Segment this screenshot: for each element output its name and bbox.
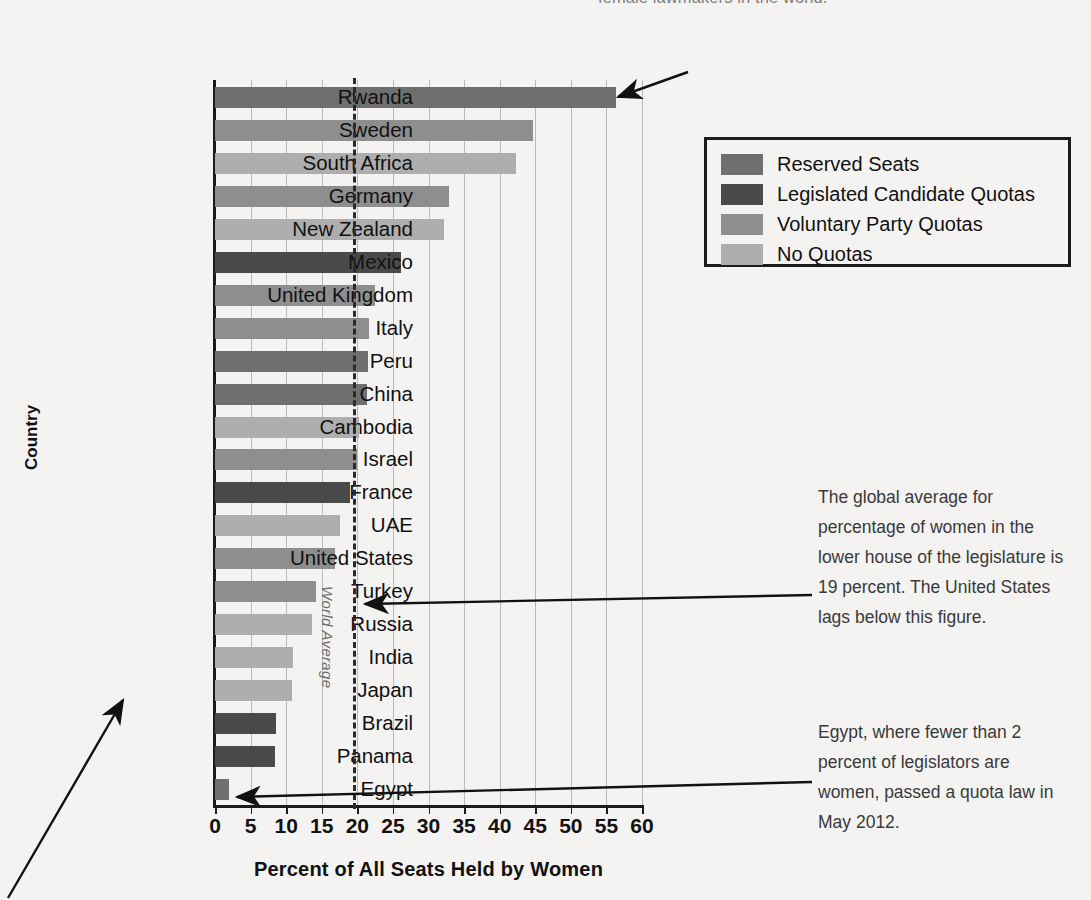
bar-row xyxy=(215,746,275,767)
y-axis-category-label: China xyxy=(359,383,413,404)
y-axis-category-label: South Africa xyxy=(302,152,413,173)
y-axis-category-label: Panama xyxy=(337,745,413,766)
legend-swatch-legislated-candidate-quotas xyxy=(721,184,763,205)
x-axis-tick xyxy=(464,805,466,814)
legend-label: Reserved Seats xyxy=(777,153,919,176)
legend-label: Voluntary Party Quotas xyxy=(777,213,983,236)
x-axis-tick-label: 10 xyxy=(274,814,297,838)
x-axis-tick xyxy=(215,805,217,814)
y-axis-category-label: Brazil xyxy=(362,712,413,733)
x-axis-tick-label: 40 xyxy=(488,814,511,838)
gridline xyxy=(571,80,572,805)
y-axis-category-label: India xyxy=(369,646,413,667)
y-axis-category-label: Japan xyxy=(357,679,413,700)
bar-row xyxy=(215,779,229,800)
x-axis-tick-label: 50 xyxy=(559,814,582,838)
y-axis-category-label: Germany xyxy=(329,185,413,206)
bar xyxy=(215,318,369,339)
legend-swatch-no-quotas xyxy=(721,244,763,265)
x-axis-tick-label: 15 xyxy=(310,814,333,838)
bar xyxy=(215,384,367,405)
bar-row xyxy=(215,318,369,339)
chart-figure: female lawmakers in the world. Country 0… xyxy=(0,0,1091,900)
bar xyxy=(215,680,292,701)
y-axis-title: Country xyxy=(22,405,42,470)
bar xyxy=(215,647,293,668)
y-axis-category-label: Egypt xyxy=(361,778,413,799)
y-axis-category-label: UAE xyxy=(371,514,413,535)
bar xyxy=(215,449,357,470)
y-axis-category-label: Italy xyxy=(375,317,413,338)
x-axis-tick xyxy=(393,805,395,814)
x-axis-tick xyxy=(606,805,608,814)
arrow-bottom-left xyxy=(8,700,123,898)
legend-item: Voluntary Party Quotas xyxy=(721,210,1068,238)
x-axis-tick xyxy=(357,805,359,814)
y-axis-category-label: United States xyxy=(290,547,413,568)
bar-row xyxy=(215,581,316,602)
x-axis-tick xyxy=(429,805,431,814)
gridline xyxy=(464,80,465,805)
bar-row xyxy=(215,449,357,470)
legend-swatch-reserved-seats xyxy=(721,154,763,175)
y-axis-category-label: Turkey xyxy=(351,580,413,601)
x-axis-tick-label: 35 xyxy=(452,814,475,838)
bar xyxy=(215,482,350,503)
annotation-egypt: Egypt, where fewer than 2 percent of leg… xyxy=(818,717,1070,837)
y-axis-category-label: Mexico xyxy=(348,251,413,272)
gridline xyxy=(535,80,536,805)
x-axis-tick xyxy=(500,805,502,814)
bar-row xyxy=(215,351,368,372)
x-axis-tick-label: 30 xyxy=(417,814,440,838)
bar-row xyxy=(215,87,616,108)
bar xyxy=(215,87,616,108)
x-axis-tick-label: 20 xyxy=(346,814,369,838)
x-axis-tick xyxy=(571,805,573,814)
y-axis-category-label: Rwanda xyxy=(338,86,413,107)
annotation-global-average: The global average for percentage of wom… xyxy=(818,482,1070,632)
legend-item: Legislated Candidate Quotas xyxy=(721,180,1068,208)
y-axis-category-label: Peru xyxy=(370,350,413,371)
bar xyxy=(215,779,229,800)
bar xyxy=(215,746,275,767)
gridline xyxy=(642,80,643,805)
x-axis-tick-label: 0 xyxy=(209,814,221,838)
bar xyxy=(215,515,340,536)
bar-row xyxy=(215,713,276,734)
x-axis-tick xyxy=(642,805,644,814)
y-axis-category-label: Russia xyxy=(350,613,413,634)
x-axis-tick-label: 25 xyxy=(381,814,404,838)
x-axis-tick xyxy=(322,805,324,814)
bar-row xyxy=(215,614,312,635)
bar-row xyxy=(215,384,367,405)
gridline xyxy=(500,80,501,805)
plot-area: 051015202530354045505560RwandaSwedenSout… xyxy=(215,80,642,805)
legend-label: No Quotas xyxy=(777,243,873,266)
bar xyxy=(215,581,316,602)
y-axis-category-label: France xyxy=(349,481,413,502)
legend-swatch-voluntary-party-quotas xyxy=(721,214,763,235)
bar-row xyxy=(215,482,350,503)
bar-row xyxy=(215,515,340,536)
top-annotation-text: female lawmakers in the world. xyxy=(598,0,1018,7)
bar xyxy=(215,713,276,734)
legend-item: No Quotas xyxy=(721,240,1068,268)
bar-row xyxy=(215,680,292,701)
world-average-line xyxy=(353,78,356,809)
x-axis-tick-label: 5 xyxy=(245,814,257,838)
y-axis-category-label: Israel xyxy=(363,448,413,469)
x-axis-tick-label: 45 xyxy=(524,814,547,838)
x-axis-tick-label: 55 xyxy=(595,814,618,838)
x-axis-tick-label: 60 xyxy=(630,814,653,838)
bar xyxy=(215,351,368,372)
y-axis-category-label: United Kingdom xyxy=(267,284,413,305)
x-axis-tick xyxy=(535,805,537,814)
legend-item: Reserved Seats xyxy=(721,150,1068,178)
gridline xyxy=(606,80,607,805)
y-axis-category-label: Sweden xyxy=(339,119,413,140)
world-average-label: World Average xyxy=(319,586,336,688)
x-axis-title: Percent of All Seats Held by Women xyxy=(215,858,642,881)
bar-row xyxy=(215,647,293,668)
bar xyxy=(215,614,312,635)
legend-label: Legislated Candidate Quotas xyxy=(777,183,1035,206)
